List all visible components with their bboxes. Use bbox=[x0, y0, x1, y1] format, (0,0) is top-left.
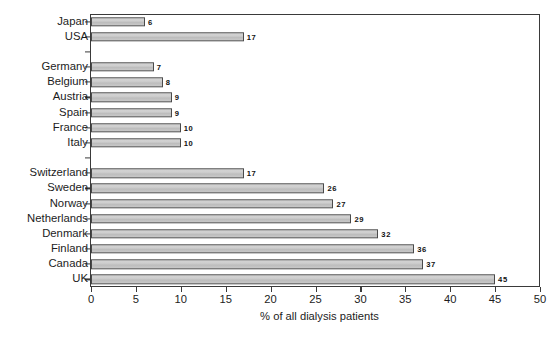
x-tick-25 bbox=[316, 287, 317, 292]
bar-spain bbox=[91, 108, 172, 117]
y-tick bbox=[85, 51, 90, 52]
chart-row: UK45 bbox=[0, 272, 549, 287]
category-label-austria: Austria bbox=[53, 92, 88, 103]
x-tick-10 bbox=[181, 287, 182, 292]
bar-value-germany: 7 bbox=[157, 63, 162, 72]
x-tick-label-50: 50 bbox=[534, 293, 546, 305]
chart-row: Finland36 bbox=[0, 242, 549, 257]
category-label-sweden: Sweden bbox=[47, 183, 88, 194]
x-tick-label-40: 40 bbox=[444, 293, 456, 305]
bar-italy bbox=[91, 138, 181, 147]
category-label-japan: Japan bbox=[57, 16, 88, 27]
chart-row: Canada37 bbox=[0, 257, 549, 272]
bar-belgium bbox=[91, 78, 163, 87]
x-axis-title: % of all dialysis patients bbox=[260, 310, 379, 322]
chart-row: Denmark32 bbox=[0, 226, 549, 241]
chart-row: USA17 bbox=[0, 29, 549, 44]
bar-germany bbox=[91, 62, 154, 71]
bar-denmark bbox=[91, 229, 378, 238]
chart-row: Italy10 bbox=[0, 135, 549, 150]
chart-row: Japan6 bbox=[0, 14, 549, 29]
category-label-denmark: Denmark bbox=[42, 228, 88, 239]
bar-usa bbox=[91, 32, 244, 41]
bar-austria bbox=[91, 93, 172, 102]
category-label-switzerland: Switzerland bbox=[30, 168, 88, 179]
x-tick-label-15: 15 bbox=[219, 293, 231, 305]
chart-row: Belgium8 bbox=[0, 75, 549, 90]
x-tick-label-0: 0 bbox=[88, 293, 94, 305]
bar-value-france: 10 bbox=[184, 123, 194, 132]
bar-netherlands bbox=[91, 214, 351, 223]
x-tick-label-10: 10 bbox=[175, 293, 187, 305]
bar-value-denmark: 32 bbox=[381, 229, 391, 238]
chart-row-spacer bbox=[0, 151, 549, 166]
chart-row: Spain9 bbox=[0, 105, 549, 120]
bar-canada bbox=[91, 260, 423, 269]
bar-chart: Japan6USA17Germany7Belgium8Austria9Spain… bbox=[0, 0, 549, 339]
x-tick-15 bbox=[226, 287, 227, 292]
chart-row-spacer bbox=[0, 44, 549, 59]
category-label-germany: Germany bbox=[42, 61, 88, 72]
x-tick-30 bbox=[360, 287, 361, 292]
chart-row: Germany7 bbox=[0, 60, 549, 75]
bar-japan bbox=[91, 17, 145, 26]
category-label-spain: Spain bbox=[59, 107, 88, 118]
bar-value-sweden: 26 bbox=[327, 184, 337, 193]
chart-rows: Japan6USA17Germany7Belgium8Austria9Spain… bbox=[0, 14, 549, 287]
bar-value-usa: 17 bbox=[247, 32, 257, 41]
category-label-france: France bbox=[53, 122, 88, 133]
x-tick-45 bbox=[495, 287, 496, 292]
bar-value-switzerland: 17 bbox=[247, 169, 257, 178]
bar-value-netherlands: 29 bbox=[354, 214, 364, 223]
x-tick-0 bbox=[91, 287, 92, 292]
x-tick-35 bbox=[405, 287, 406, 292]
x-axis-title-wrap: % of all dialysis patients bbox=[0, 310, 549, 322]
bar-value-japan: 6 bbox=[148, 17, 153, 26]
bar-value-belgium: 8 bbox=[166, 78, 171, 87]
y-tick bbox=[85, 157, 90, 158]
category-label-canada: Canada bbox=[48, 259, 88, 270]
x-tick-label-25: 25 bbox=[309, 293, 321, 305]
x-tick-label-35: 35 bbox=[399, 293, 411, 305]
bar-value-uk: 45 bbox=[498, 275, 508, 284]
x-tick-50 bbox=[540, 287, 541, 292]
bar-value-austria: 9 bbox=[175, 93, 180, 102]
category-label-finland: Finland bbox=[51, 243, 88, 254]
x-tick-label-5: 5 bbox=[133, 293, 139, 305]
chart-row: Sweden26 bbox=[0, 181, 549, 196]
x-tick-label-45: 45 bbox=[489, 293, 501, 305]
bar-uk bbox=[91, 275, 495, 284]
x-axis: 05101520253035404550 % of all dialysis p… bbox=[0, 287, 549, 339]
category-label-usa: USA bbox=[65, 31, 88, 42]
bar-sweden bbox=[91, 184, 324, 193]
chart-row: France10 bbox=[0, 120, 549, 135]
bar-norway bbox=[91, 199, 333, 208]
bar-value-italy: 10 bbox=[184, 138, 194, 147]
category-label-netherlands: Netherlands bbox=[27, 213, 88, 224]
chart-row: Austria9 bbox=[0, 90, 549, 105]
category-label-uk: UK bbox=[72, 274, 88, 285]
chart-row: Norway27 bbox=[0, 196, 549, 211]
x-tick-40 bbox=[450, 287, 451, 292]
bar-value-spain: 9 bbox=[175, 108, 180, 117]
bar-value-finland: 36 bbox=[417, 245, 427, 254]
x-tick-label-30: 30 bbox=[354, 293, 366, 305]
chart-row: Switzerland17 bbox=[0, 166, 549, 181]
x-tick-label-20: 20 bbox=[264, 293, 276, 305]
bar-finland bbox=[91, 244, 414, 253]
category-label-belgium: Belgium bbox=[47, 77, 88, 88]
bar-france bbox=[91, 123, 181, 132]
x-tick-5 bbox=[136, 287, 137, 292]
category-label-italy: Italy bbox=[67, 137, 88, 148]
bar-switzerland bbox=[91, 169, 244, 178]
category-label-norway: Norway bbox=[50, 198, 88, 209]
chart-row: Netherlands29 bbox=[0, 211, 549, 226]
bar-value-norway: 27 bbox=[336, 199, 346, 208]
x-tick-20 bbox=[271, 287, 272, 292]
bar-value-canada: 37 bbox=[426, 260, 436, 269]
